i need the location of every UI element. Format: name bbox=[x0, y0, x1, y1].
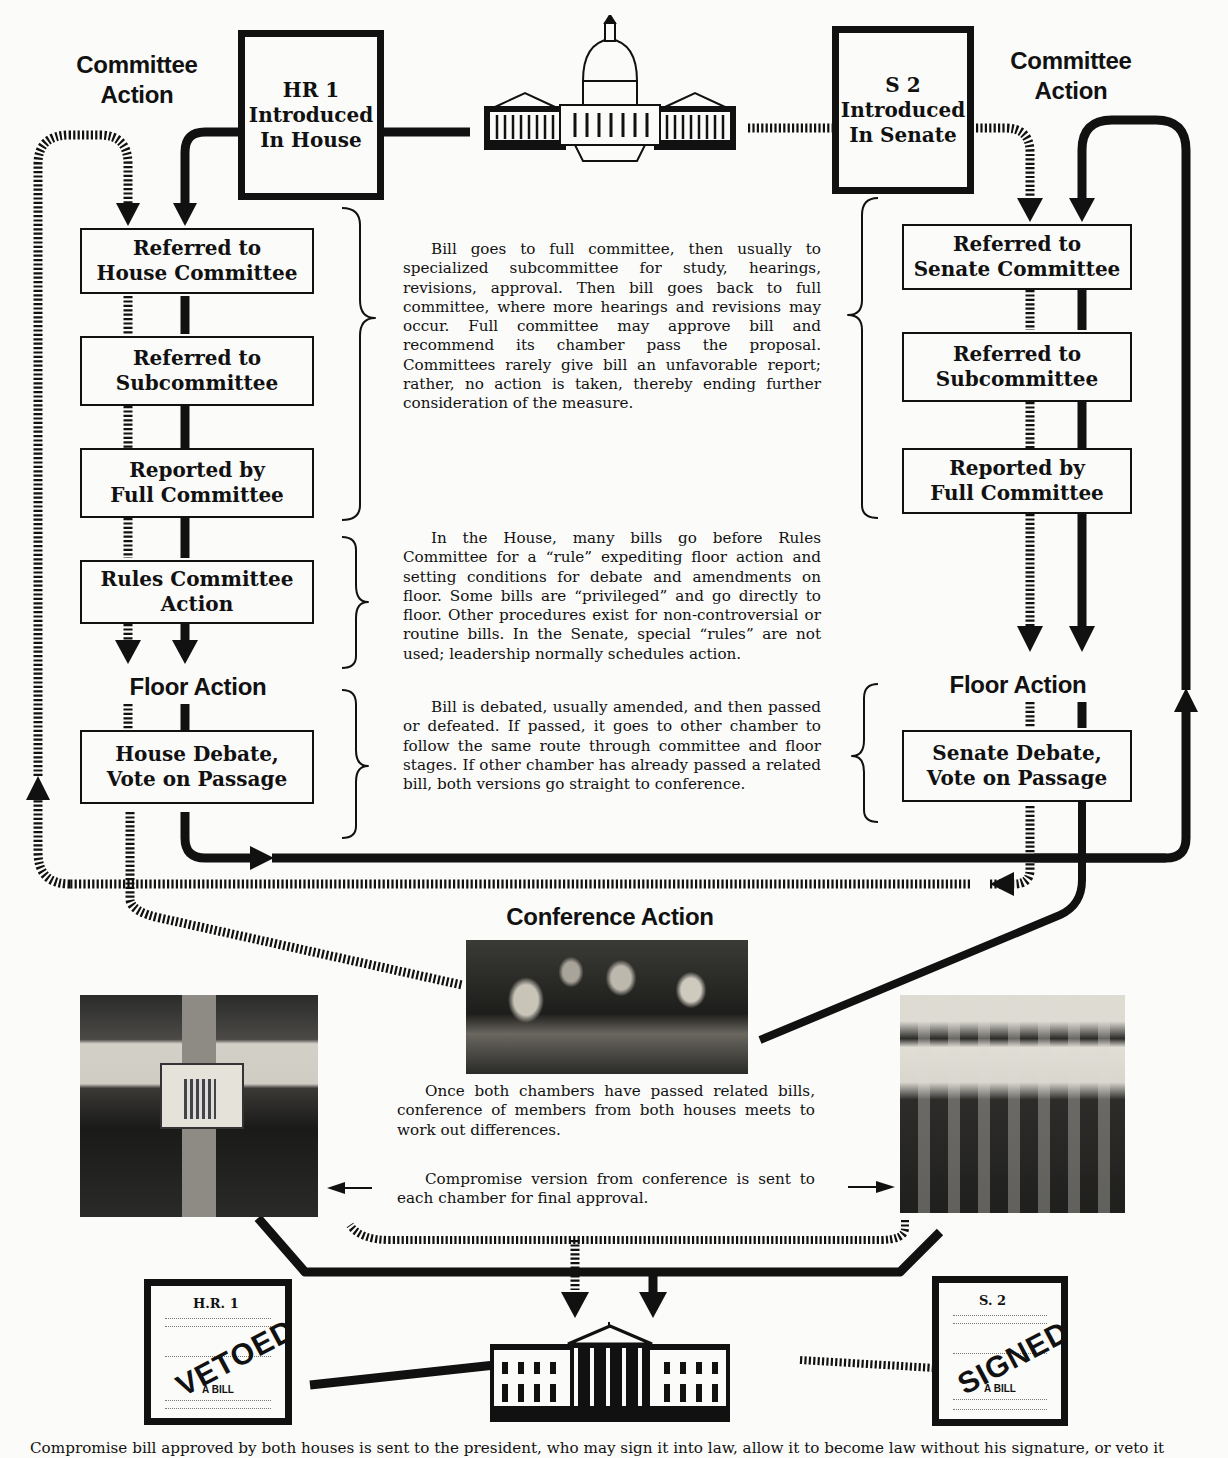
conference-text-1: Once both chambers have passed related b… bbox=[397, 1082, 815, 1140]
conference-text-2: Compromise version from conference is se… bbox=[397, 1170, 815, 1209]
conference-action-label: Conference Action bbox=[470, 902, 750, 932]
house-bill-document[interactable]: H.R. 1 VETOED A BILL bbox=[144, 1279, 292, 1425]
senate-step-referred-subcommittee[interactable]: Referred to Subcommittee bbox=[902, 332, 1132, 402]
senate-step-debate-vote[interactable]: Senate Debate, Vote on Passage bbox=[902, 730, 1132, 802]
step-line2: Full Committee bbox=[110, 483, 284, 508]
step-line1: Referred to bbox=[133, 236, 261, 261]
s2-number: S 2 bbox=[841, 73, 965, 98]
step-line2: House Committee bbox=[97, 261, 298, 286]
house-step-rules-committee[interactable]: Rules Committee Action bbox=[80, 560, 314, 624]
step-line1: House Debate, bbox=[115, 742, 279, 767]
senate-step-referred-committee[interactable]: Referred to Senate Committee bbox=[902, 224, 1132, 290]
white-house-icon bbox=[490, 1322, 730, 1422]
floor-description: Bill is debated, usually amended, and th… bbox=[403, 698, 821, 794]
hr1-number: HR 1 bbox=[249, 78, 373, 103]
step-line1: Senate Debate, bbox=[932, 741, 1102, 766]
step-line2: Vote on Passage bbox=[927, 766, 1107, 791]
senate-floor-action-label: Floor Action bbox=[920, 670, 1116, 700]
step-line2: Subcommittee bbox=[116, 371, 278, 396]
s2-line2: Introduced bbox=[841, 98, 965, 123]
step-line2: Full Committee bbox=[930, 481, 1104, 506]
step-line1: Reported by bbox=[949, 456, 1085, 481]
step-line2: Subcommittee bbox=[936, 367, 1098, 392]
hr1-introduced-box[interactable]: HR 1 Introduced In House bbox=[238, 30, 384, 200]
house-step-referred-subcommittee[interactable]: Referred to Subcommittee bbox=[80, 336, 314, 406]
s2-line3: In Senate bbox=[841, 123, 965, 148]
conference-meeting-photo bbox=[466, 940, 748, 1074]
step-line2: Action bbox=[161, 592, 233, 617]
senate-bill-number: S. 2 bbox=[979, 1293, 1006, 1308]
step-line1: Referred to bbox=[133, 346, 261, 371]
step-line1: Reported by bbox=[129, 458, 265, 483]
senate-bill-document[interactable]: S. 2 SIGNED A BILL bbox=[932, 1276, 1068, 1426]
hr1-line3: In House bbox=[249, 128, 373, 153]
house-bill-number: H.R. 1 bbox=[193, 1296, 239, 1311]
senate-committee-action-label: Committee Action bbox=[996, 46, 1146, 106]
step-line1: Referred to bbox=[953, 342, 1081, 367]
step-line2: Senate Committee bbox=[914, 257, 1121, 282]
step-line1: Rules Committee bbox=[101, 567, 294, 592]
capitol-icon bbox=[465, 15, 755, 165]
flag-icon bbox=[184, 1079, 216, 1119]
house-step-referred-committee[interactable]: Referred to House Committee bbox=[80, 228, 314, 294]
senate-chamber-photo bbox=[900, 995, 1125, 1213]
house-committee-action-label: Committee Action bbox=[62, 50, 212, 110]
house-chamber-photo bbox=[80, 995, 318, 1217]
step-line2: Vote on Passage bbox=[107, 767, 287, 792]
hr1-line2: Introduced bbox=[249, 103, 373, 128]
senate-step-reported-full-committee[interactable]: Reported by Full Committee bbox=[902, 448, 1132, 514]
house-step-reported-full-committee[interactable]: Reported by Full Committee bbox=[80, 448, 314, 518]
footer-caption: Compromise bill approved by both houses … bbox=[30, 1438, 1164, 1458]
committee-description: Bill goes to full committee, then usuall… bbox=[403, 240, 821, 414]
rules-description: In the House, many bills go before Rules… bbox=[403, 529, 821, 664]
house-step-debate-vote[interactable]: House Debate, Vote on Passage bbox=[80, 730, 314, 804]
senate-bill-label: A BILL bbox=[939, 1383, 1061, 1394]
step-line1: Referred to bbox=[953, 232, 1081, 257]
house-floor-action-label: Floor Action bbox=[100, 672, 296, 702]
house-bill-label: A BILL bbox=[151, 1384, 285, 1395]
s2-introduced-box[interactable]: S 2 Introduced In Senate bbox=[832, 26, 974, 194]
